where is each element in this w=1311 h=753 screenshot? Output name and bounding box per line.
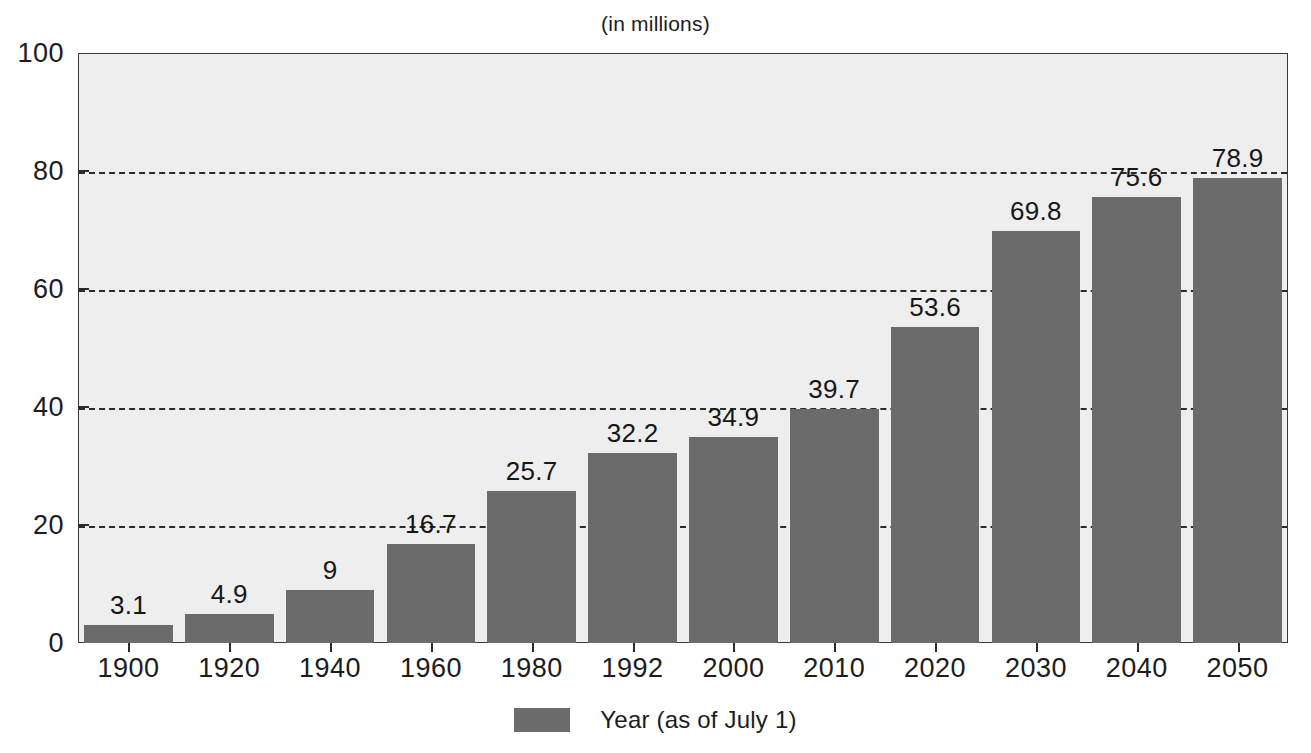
bar-2010[interactable]: 39.7 [784, 53, 885, 643]
x-tick-label: 1992 [582, 653, 683, 684]
y-tick-mark [78, 524, 89, 526]
x-tick-label: 1920 [179, 653, 280, 684]
bar-2000[interactable]: 34.9 [683, 53, 784, 643]
x-tick-mark [532, 643, 534, 652]
x-tick-label: 2020 [885, 653, 986, 684]
y-tick-label: 0 [48, 628, 64, 659]
bar-rect [84, 625, 173, 643]
bar-rect [689, 437, 778, 643]
x-tick-1900: 1900 [78, 643, 179, 701]
x-tick-mark [431, 643, 433, 652]
x-tick-1992: 1992 [582, 643, 683, 701]
bar-value-label: 78.9 [1187, 143, 1288, 174]
x-tick-mark [834, 643, 836, 652]
bar-2040[interactable]: 75.6 [1086, 53, 1187, 643]
bar-1900[interactable]: 3.1 [78, 53, 179, 643]
x-tick-label: 2010 [784, 653, 885, 684]
x-tick-mark [330, 643, 332, 652]
x-tick-mark [935, 643, 937, 652]
x-axis: 1900192019401960198019922000201020202030… [78, 643, 1288, 701]
bar-value-label: 16.7 [381, 509, 482, 540]
bar-rect [891, 327, 980, 643]
bar-1960[interactable]: 16.7 [381, 53, 482, 643]
bar-2030[interactable]: 69.8 [986, 53, 1087, 643]
y-tick-mark [78, 406, 89, 408]
bar-value-label: 34.9 [683, 402, 784, 433]
x-tick-2020: 2020 [885, 643, 986, 701]
x-tick-label: 2000 [683, 653, 784, 684]
chart-title: (in millions) [0, 12, 1311, 36]
bar-value-label: 3.1 [78, 590, 179, 621]
x-tick-2030: 2030 [986, 643, 1087, 701]
x-tick-label: 1980 [481, 653, 582, 684]
bar-rect [1193, 178, 1282, 644]
y-tick-mark [78, 170, 89, 172]
y-tick-mark [78, 288, 89, 290]
y-axis: 020406080100 [0, 53, 64, 643]
bar-value-label: 75.6 [1086, 162, 1187, 193]
chart-legend: Year (as of July 1) [0, 706, 1311, 734]
x-tick-label: 2040 [1086, 653, 1187, 684]
bar-1920[interactable]: 4.9 [179, 53, 280, 643]
x-tick-mark [1238, 643, 1240, 652]
bar-rect [487, 491, 576, 643]
bar-value-label: 4.9 [179, 579, 280, 610]
legend-swatch-year [514, 708, 570, 732]
x-tick-2050: 2050 [1187, 643, 1288, 701]
x-tick-label: 2050 [1187, 653, 1288, 684]
bar-rect [588, 453, 677, 643]
x-tick-1920: 1920 [179, 643, 280, 701]
bar-value-label: 39.7 [784, 374, 885, 405]
bar-1980[interactable]: 25.7 [481, 53, 582, 643]
x-tick-mark [229, 643, 231, 652]
bar-value-label: 25.7 [481, 456, 582, 487]
x-tick-mark [733, 643, 735, 652]
x-tick-mark [128, 643, 130, 652]
x-tick-mark [1137, 643, 1139, 652]
chart-figure: (in millions) 020406080100 3.14.9916.725… [0, 0, 1311, 753]
bar-rect [387, 544, 476, 643]
bar-value-label: 53.6 [885, 292, 986, 323]
x-tick-2000: 2000 [683, 643, 784, 701]
bar-rect [286, 590, 375, 643]
legend-label-year: Year (as of July 1) [600, 706, 796, 734]
bar-2020[interactable]: 53.6 [885, 53, 986, 643]
x-tick-mark [1036, 643, 1038, 652]
bar-2050[interactable]: 78.9 [1187, 53, 1288, 643]
bar-1940[interactable]: 9 [280, 53, 381, 643]
x-tick-label: 1900 [78, 653, 179, 684]
x-tick-1960: 1960 [381, 643, 482, 701]
bar-value-label: 9 [280, 555, 381, 586]
bar-rect [1092, 197, 1181, 643]
y-tick-label: 60 [33, 274, 64, 305]
y-tick-label: 20 [33, 510, 64, 541]
bar-rect [185, 614, 274, 643]
x-tick-1940: 1940 [280, 643, 381, 701]
bar-value-label: 69.8 [986, 196, 1087, 227]
x-tick-label: 1940 [280, 653, 381, 684]
bars-layer: 3.14.9916.725.732.234.939.753.669.875.67… [78, 53, 1288, 643]
y-tick-label: 40 [33, 392, 64, 423]
x-tick-2040: 2040 [1086, 643, 1187, 701]
x-tick-mark [633, 643, 635, 652]
x-tick-1980: 1980 [481, 643, 582, 701]
bar-value-label: 32.2 [582, 418, 683, 449]
x-tick-2010: 2010 [784, 643, 885, 701]
bar-rect [790, 409, 879, 643]
bar-1992[interactable]: 32.2 [582, 53, 683, 643]
y-tick-label: 100 [17, 38, 64, 69]
x-tick-label: 2030 [986, 653, 1087, 684]
bar-rect [992, 231, 1081, 643]
y-tick-label: 80 [33, 156, 64, 187]
x-tick-label: 1960 [381, 653, 482, 684]
